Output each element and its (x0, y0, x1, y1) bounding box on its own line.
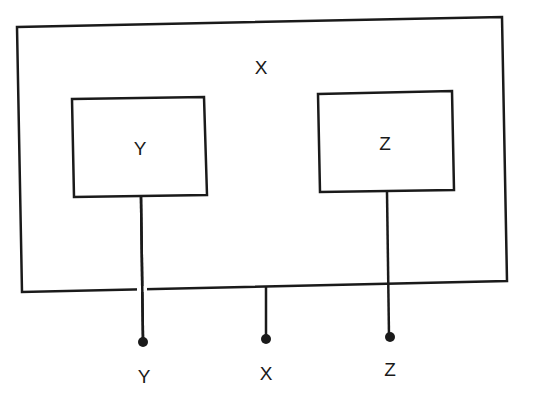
inner-box-z-label: Z (379, 133, 391, 154)
terminal-label-x: X (260, 363, 273, 384)
lead-z (387, 192, 389, 336)
inner-box-y-label: Y (134, 138, 147, 159)
terminal-label-y: Y (138, 366, 151, 387)
terminal-dot-x[interactable] (261, 334, 271, 344)
nested-box-diagram: X Y Z Y X Z (0, 0, 535, 401)
lead-y-overlay (141, 197, 143, 341)
terminal-dot-y[interactable] (138, 337, 148, 347)
terminal-dot-z[interactable] (385, 332, 395, 342)
terminal-label-z: Z (384, 359, 396, 380)
outer-box-label: X (255, 57, 268, 78)
